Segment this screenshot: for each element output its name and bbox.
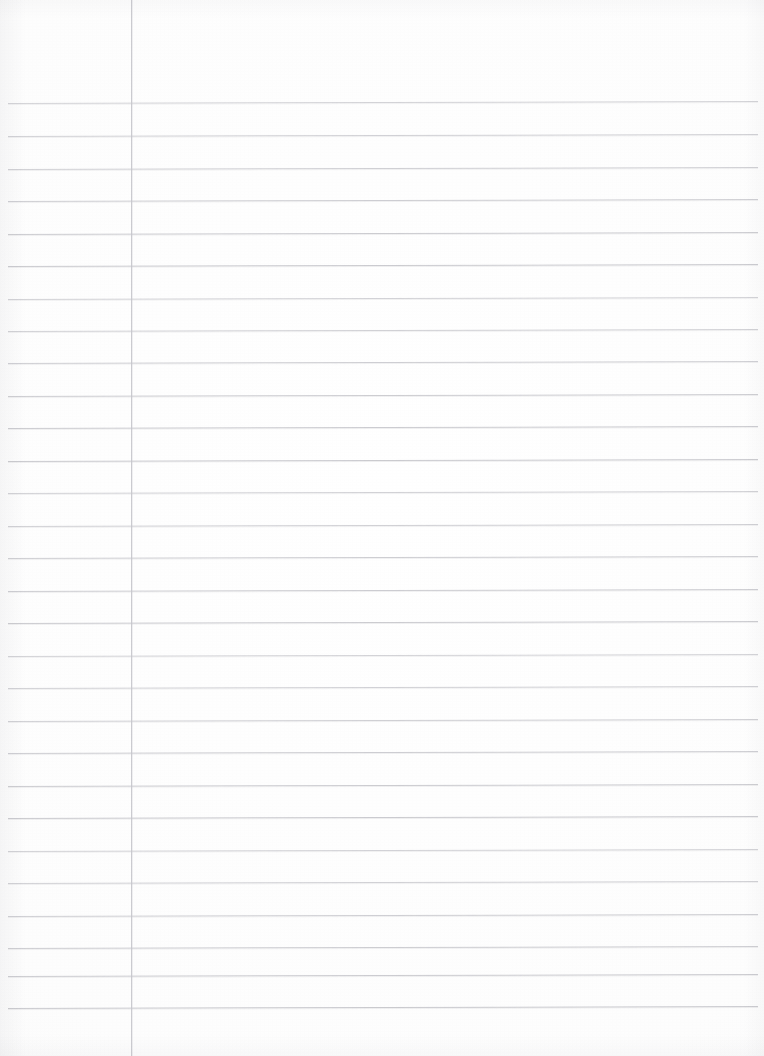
margin-region — [0, 0, 131, 1056]
writing-region — [131, 103, 764, 1008]
paper-page — [0, 0, 764, 1056]
